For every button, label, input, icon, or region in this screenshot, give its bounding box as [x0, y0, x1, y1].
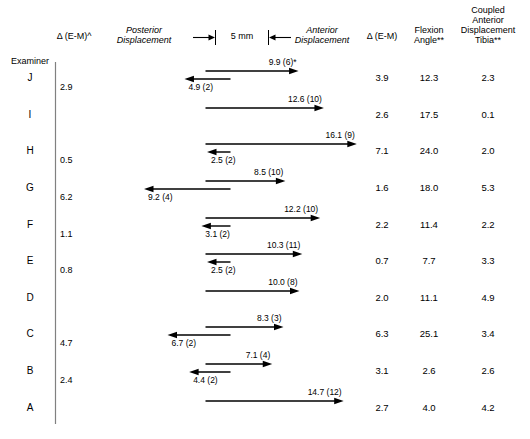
anterior-arrow-label-F: 12.2 (10) [256, 204, 318, 214]
row-letter-E: E [2, 255, 58, 266]
row-letter-H: H [2, 145, 58, 156]
cell-coupled-B: 2.6 [455, 365, 521, 376]
cell-delta-left-B: 2.4 [60, 375, 100, 385]
anterior-arrow-label-G: 8.5 (10) [221, 167, 283, 177]
anterior-arrow-B [206, 361, 273, 368]
row-letter-A: A [2, 402, 58, 413]
cell-delta-left-E: 0.8 [60, 265, 100, 275]
anterior-arrow-E [206, 251, 303, 258]
cell-coupled-C: 3.4 [455, 328, 521, 339]
cell-delta-right-E: 0.7 [357, 255, 407, 266]
posterior-arrow-label-C: 6.7 (2) [172, 338, 242, 348]
anterior-arrow-J [206, 68, 299, 75]
anterior-arrow-H [206, 141, 357, 148]
cell-flexion-angle-B: 2.6 [405, 365, 453, 376]
anterior-arrow-F [206, 215, 321, 222]
cell-delta-right-B: 3.1 [357, 365, 407, 376]
cell-flexion-angle-G: 18.0 [405, 182, 453, 193]
cell-delta-left-H: 0.5 [60, 155, 100, 165]
posterior-arrow-label-F: 3.1 (2) [205, 229, 275, 239]
cell-flexion-angle-F: 11.4 [405, 219, 453, 230]
cell-delta-left-F: 1.1 [60, 229, 100, 239]
cell-flexion-angle-C: 25.1 [405, 328, 453, 339]
row-letter-B: B [2, 365, 58, 376]
cell-flexion-angle-I: 17.5 [405, 109, 453, 120]
cell-coupled-G: 5.3 [455, 182, 521, 193]
row-letter-I: I [2, 109, 58, 120]
cell-coupled-E: 3.3 [455, 255, 521, 266]
anterior-arrow-label-B: 7.1 (4) [208, 350, 270, 360]
cell-coupled-F: 2.2 [455, 219, 521, 230]
anterior-arrow-label-C: 8.3 (3) [220, 313, 282, 323]
anterior-arrow-C [206, 324, 284, 331]
cell-delta-left-C: 4.7 [60, 338, 100, 348]
cell-flexion-angle-H: 24.0 [405, 145, 453, 156]
cell-delta-right-J: 3.9 [357, 72, 407, 83]
posterior-arrow-label-J: 4.9 (2) [188, 82, 258, 92]
anterior-arrow-label-H: 16.1 (9) [293, 130, 355, 140]
cell-coupled-I: 0.1 [455, 109, 521, 120]
posterior-arrow-label-E: 2.5 (2) [211, 265, 281, 275]
anterior-arrow-label-A: 14.7 (12) [280, 387, 342, 397]
anterior-arrow-label-D: 10.0 (8) [236, 277, 298, 287]
cell-delta-right-A: 2.7 [357, 402, 407, 413]
row-letter-F: F [2, 219, 58, 230]
posterior-arrow-label-H: 2.5 (2) [211, 155, 281, 165]
cell-flexion-angle-D: 11.1 [405, 292, 453, 303]
anterior-arrow-label-I: 12.6 (10) [260, 94, 322, 104]
cell-flexion-angle-J: 12.3 [405, 72, 453, 83]
cell-flexion-angle-E: 7.7 [405, 255, 453, 266]
cell-coupled-D: 4.9 [455, 292, 521, 303]
row-letter-D: D [2, 292, 58, 303]
cell-delta-left-J: 2.9 [60, 82, 100, 92]
anterior-arrow-D [206, 288, 300, 295]
cell-delta-right-G: 1.6 [357, 182, 407, 193]
cell-coupled-J: 2.3 [455, 72, 521, 83]
cell-coupled-A: 4.2 [455, 402, 521, 413]
cell-delta-right-C: 6.3 [357, 328, 407, 339]
cell-delta-right-F: 2.2 [357, 219, 407, 230]
cell-coupled-H: 2.0 [455, 145, 521, 156]
posterior-arrow-label-G: 9.2 (4) [148, 192, 218, 202]
row-letter-G: G [2, 182, 58, 193]
anterior-arrow-A [206, 398, 344, 405]
row-letter-J: J [2, 72, 58, 83]
cell-delta-left-G: 6.2 [60, 192, 100, 202]
cell-delta-right-D: 2.0 [357, 292, 407, 303]
cell-delta-right-H: 7.1 [357, 145, 407, 156]
anterior-arrow-label-J: 9.9 (6)* [235, 57, 297, 67]
anterior-arrow-G [206, 178, 286, 185]
anterior-arrow-label-E: 10.3 (11) [238, 240, 300, 250]
cell-flexion-angle-A: 4.0 [405, 402, 453, 413]
row-letter-C: C [2, 328, 58, 339]
anterior-arrow-I [206, 105, 324, 112]
posterior-arrow-label-B: 4.4 (2) [193, 375, 263, 385]
figure-canvas: Δ (E-M)^ Posterior Displacement 5 mm Ant… [0, 0, 530, 439]
cell-delta-right-I: 2.6 [357, 109, 407, 120]
